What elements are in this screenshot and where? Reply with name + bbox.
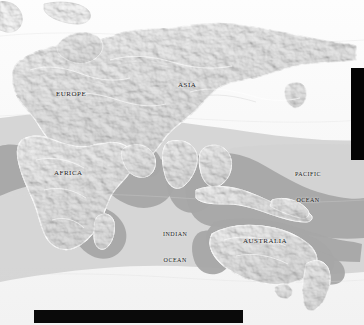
label-africa: Africa <box>54 167 83 177</box>
label-pacific-ocean: Pacific Ocean <box>295 152 321 223</box>
map-figure: Europe Asia Africa Australia Indian Ocea… <box>0 0 364 325</box>
bottom-black-bar <box>34 310 243 323</box>
label-pacific-ocean-line1: Pacific <box>295 170 321 179</box>
label-australia: Australia <box>243 235 287 245</box>
label-indian-ocean-line2: Ocean <box>163 256 187 265</box>
label-asia: Asia <box>178 79 196 89</box>
label-pacific-ocean-line2: Ocean <box>295 196 321 205</box>
label-indian-ocean-line1: Indian <box>163 230 187 239</box>
label-europe: Europe <box>56 88 86 98</box>
right-black-bar <box>351 68 364 160</box>
label-indian-ocean: Indian Ocean <box>163 212 187 283</box>
